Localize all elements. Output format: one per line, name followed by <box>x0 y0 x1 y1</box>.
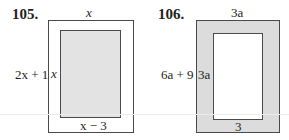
outer-height-label: 6a + 9 <box>161 68 194 81</box>
outer-width-label: x <box>86 6 92 19</box>
inner-width-label: 3 <box>235 120 242 133</box>
inner-width-label: x − 3 <box>80 119 107 132</box>
scan-line <box>0 114 289 115</box>
inner-height-label: 3a <box>198 68 210 81</box>
outer-height-label: 2x + 1 <box>15 68 48 81</box>
problem-number: 105. <box>12 7 38 22</box>
inner-rectangle <box>213 33 263 120</box>
inner-height-label: x <box>51 67 57 80</box>
inner-rectangle-shaded <box>60 30 121 118</box>
problem-number: 106. <box>158 7 184 22</box>
outer-width-label: 3a <box>231 6 243 19</box>
